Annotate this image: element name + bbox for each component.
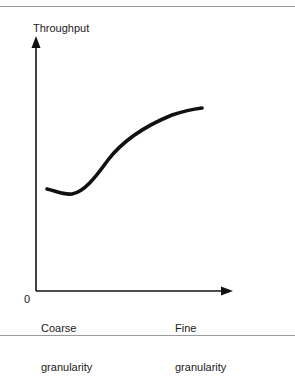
origin-label: 0 [24,293,30,306]
x-axis-label-fine-line2: granularity [175,361,226,374]
x-axis-arrowhead [221,287,233,296]
x-axis-label-coarse: Coarse granularity [41,296,92,377]
x-axis-label-fine-line1: Fine [175,322,226,335]
x-axis-label-coarse-line1: Coarse [41,322,92,335]
x-axis-label-fine: Fine granularity [175,296,226,377]
throughput-curve [47,108,202,194]
y-axis-arrowhead [32,36,41,48]
x-axis-label-coarse-line2: granularity [41,361,92,374]
y-axis-label: Throughput [33,22,89,35]
